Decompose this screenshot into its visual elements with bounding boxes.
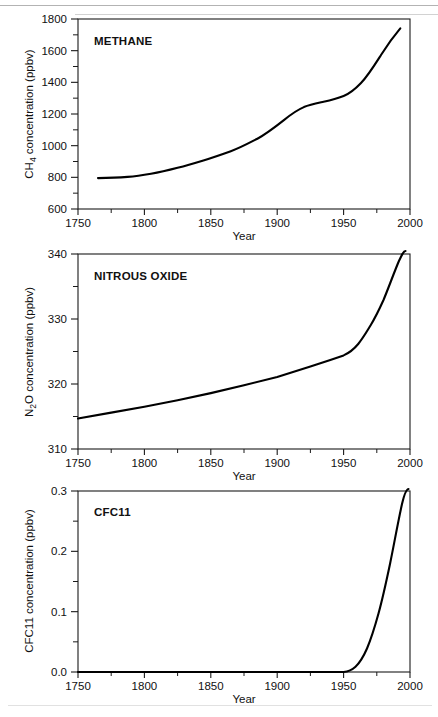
methane-panel-label: METHANE — [94, 35, 152, 47]
panel-cfc11: 0.0 0.1 0.2 0.3 1750 1800 1850 — [0, 480, 438, 717]
cfc11-panel-label: CFC11 — [94, 506, 131, 518]
nitrous-oxide-chart-svg: 310 320 330 340 1750 1800 1850 — [0, 240, 438, 480]
methane-xtick-5: 2000 — [397, 217, 423, 229]
methane-ytick-1: 800 — [48, 171, 67, 183]
cfc11-chart-svg: 0.0 0.1 0.2 0.3 1750 1800 1850 — [0, 480, 438, 717]
nitrous-oxide-x-axis-title: Year — [232, 470, 255, 480]
methane-x-axis-title: Year — [232, 230, 255, 240]
nitrous-oxide-plot-frame — [78, 254, 410, 449]
methane-y-title-tail: concentration (ppbv) — [23, 49, 35, 157]
nitrous-oxide-xtick-4: 1950 — [331, 457, 357, 469]
methane-chart-svg: 600 800 1000 1200 1400 1600 1800 — [0, 0, 438, 240]
methane-ytick-2: 1000 — [41, 140, 67, 152]
panel-nitrous-oxide: 310 320 330 340 1750 1800 1850 — [0, 240, 438, 480]
cfc11-ytick-2: 0.2 — [51, 545, 67, 557]
methane-y-axis: 600 800 1000 1200 1400 1600 1800 — [41, 13, 78, 215]
cfc11-plot-frame — [78, 491, 410, 672]
cfc11-xtick-0: 1750 — [65, 680, 91, 692]
nitrous-oxide-xtick-0: 1750 — [65, 457, 91, 469]
nitrous-oxide-ytick-3: 340 — [48, 248, 67, 260]
cfc11-xtick-2: 1850 — [198, 680, 224, 692]
methane-xtick-2: 1850 — [198, 217, 224, 229]
nitrous-oxide-panel-label: NITROUS OXIDE — [94, 270, 187, 282]
nitrous-oxide-ytick-0: 310 — [48, 443, 67, 455]
methane-plot-frame — [78, 19, 410, 209]
cfc11-ytick-3: 0.3 — [51, 485, 67, 497]
methane-y-title-lead: CH — [23, 162, 35, 179]
nitrous-oxide-xtick-1: 1800 — [132, 457, 158, 469]
methane-xtick-1: 1800 — [132, 217, 158, 229]
methane-ytick-0: 600 — [48, 203, 67, 215]
nitrous-oxide-ytick-1: 320 — [48, 378, 67, 390]
cfc11-x-axis-title: Year — [232, 693, 255, 705]
cfc11-x-axis: 1750 1800 1850 1900 1950 2000 — [65, 672, 423, 692]
cfc11-ytick-0: 0.0 — [51, 666, 67, 678]
nitrous-oxide-ytick-2: 330 — [48, 313, 67, 325]
nitrous-oxide-xtick-2: 1850 — [198, 457, 224, 469]
methane-xtick-0: 1750 — [65, 217, 91, 229]
nitrous-oxide-x-axis: 1750 1800 1850 1900 1950 2000 — [65, 449, 423, 469]
nitrous-oxide-y-title-lead: N — [23, 409, 35, 417]
methane-ytick-4: 1400 — [41, 76, 67, 88]
nitrous-oxide-xtick-5: 2000 — [397, 457, 423, 469]
cfc11-y-title-lead: CFC11 concentration (ppbv) — [23, 509, 35, 653]
nitrous-oxide-xtick-3: 1900 — [264, 457, 290, 469]
svg-text:N2O concentration (ppbv): N2O concentration (ppbv) — [23, 287, 38, 417]
methane-ytick-3: 1200 — [41, 108, 67, 120]
methane-xtick-4: 1950 — [331, 217, 357, 229]
methane-x-axis: 1750 1800 1850 1900 1950 2000 — [65, 209, 423, 229]
cfc11-ytick-1: 0.1 — [51, 606, 67, 618]
methane-y-axis-title: CH4 concentration (ppbv) — [23, 49, 38, 179]
cfc11-xtick-4: 1950 — [331, 680, 357, 692]
methane-ytick-6: 1800 — [41, 13, 67, 25]
nitrous-oxide-y-axis-title: N2O concentration (ppbv) — [23, 287, 38, 417]
methane-ytick-5: 1600 — [41, 45, 67, 57]
cfc11-y-axis-title: CFC11 concentration (ppbv) — [23, 509, 35, 653]
cfc11-y-axis: 0.0 0.1 0.2 0.3 — [51, 485, 78, 678]
cfc11-xtick-3: 1900 — [264, 680, 290, 692]
methane-series-line — [98, 28, 400, 178]
cfc11-xtick-5: 2000 — [397, 680, 423, 692]
cfc11-xtick-1: 1800 — [132, 680, 158, 692]
panel-methane: 600 800 1000 1200 1400 1600 1800 — [0, 0, 438, 240]
figure-page: 600 800 1000 1200 1400 1600 1800 — [0, 0, 438, 717]
svg-text:CH4 concentration (ppbv): CH4 concentration (ppbv) — [23, 49, 38, 179]
nitrous-oxide-y-axis: 310 320 330 340 — [48, 248, 78, 455]
nitrous-oxide-y-title-tail: O concentration (ppbv) — [23, 287, 35, 404]
methane-xtick-3: 1900 — [264, 217, 290, 229]
